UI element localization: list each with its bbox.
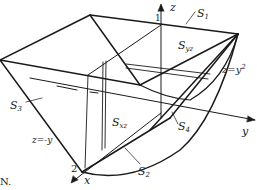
- s1-sub: 1: [205, 13, 209, 21]
- z-axis-label: z: [170, 2, 176, 13]
- z-axis-arrowhead: [158, 4, 164, 11]
- parabola-exp: 2: [241, 63, 245, 71]
- x-axis-arrowhead: [71, 176, 78, 183]
- apex-diagonal: [90, 15, 140, 85]
- s4-base: S: [178, 120, 186, 133]
- s2-label: S2: [138, 166, 150, 179]
- vertical-line-mid-a: [102, 62, 103, 150]
- x-tick-two-label: 2: [71, 164, 77, 174]
- syz-sub: yz: [186, 45, 194, 53]
- slice-line-bottom: [126, 68, 208, 79]
- syz-label: Syz: [178, 40, 193, 53]
- vertical-line-mid-b: [105, 61, 106, 148]
- front-plane-edge: [0, 60, 140, 85]
- top-back-edge: [90, 15, 238, 34]
- s2-base: S: [138, 165, 146, 178]
- line-equation-label: z=-y: [32, 136, 52, 145]
- slice-line-top: [126, 64, 210, 74]
- s2-sub: 2: [146, 171, 150, 179]
- hidden-line-b: [90, 92, 98, 93]
- 3d-region-diagram: [0, 0, 257, 190]
- s2-leader: [125, 148, 140, 164]
- parabola-lhs: z=y: [222, 64, 241, 75]
- y-axis-label: y: [242, 126, 248, 137]
- s3-base: S: [10, 99, 18, 112]
- corner-text: N.: [0, 177, 11, 187]
- syz-base: S: [178, 39, 186, 52]
- s4-sub: 4: [186, 126, 190, 134]
- s1-leader: [186, 12, 195, 24]
- s3-left-edge: [0, 60, 82, 172]
- s1-label: S1: [197, 8, 209, 21]
- syz-diagonal: [88, 25, 161, 75]
- s3-label: S3: [10, 100, 22, 113]
- top-left-edge: [0, 15, 90, 60]
- s1-base: S: [197, 7, 205, 20]
- y-axis-arrowhead: [247, 116, 255, 122]
- sxz-label: Sxz: [112, 117, 127, 130]
- s4-label: S4: [178, 121, 190, 134]
- sxz-base: S: [112, 116, 120, 129]
- s3-sub: 3: [18, 105, 22, 113]
- s4-edge-outer: [150, 34, 238, 130]
- parabola-equation-label: z=y2: [222, 64, 246, 75]
- z-tick-one-label: 1: [155, 14, 161, 23]
- x-axis-label: x: [84, 175, 90, 186]
- sxz-sub: xz: [120, 122, 128, 130]
